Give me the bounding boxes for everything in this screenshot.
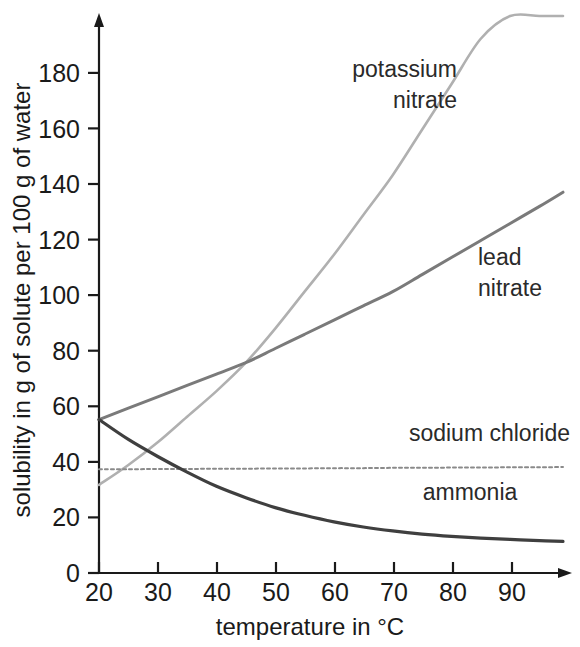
y-axis-arrow-icon xyxy=(94,13,104,27)
series-label-potassium-nitrate-line2: nitrate xyxy=(393,87,457,113)
x-tick-label-90: 90 xyxy=(498,578,526,606)
x-tick-label-70: 70 xyxy=(380,578,408,606)
x-axis-title: temperature in °C xyxy=(216,613,404,640)
y-tick-labels: 0 20 40 60 80 100 120 140 160 180 xyxy=(38,59,80,587)
x-tick-label-60: 60 xyxy=(321,578,349,606)
y-tick-label-40: 40 xyxy=(52,448,80,476)
x-tick-label-20: 20 xyxy=(85,578,113,606)
curve-sodium-chloride xyxy=(99,467,563,469)
x-tick-label-30: 30 xyxy=(144,578,172,606)
x-tick-label-50: 50 xyxy=(262,578,290,606)
x-tick-label-40: 40 xyxy=(203,578,231,606)
y-axis-title: solubility in g of solute per 100 g of w… xyxy=(8,83,35,518)
y-tick-label-120: 120 xyxy=(38,226,80,254)
series-label-ammonia: ammonia xyxy=(423,479,518,505)
y-tick-label-60: 60 xyxy=(52,392,80,420)
y-tick-label-140: 140 xyxy=(38,170,80,198)
series-label-lead-nitrate-line2: nitrate xyxy=(478,275,542,301)
y-tick-marks xyxy=(88,73,99,573)
y-tick-label-80: 80 xyxy=(52,337,80,365)
x-tick-labels: 20 30 40 50 60 70 80 90 xyxy=(85,578,526,606)
series-label-lead-nitrate-line1: lead xyxy=(478,244,521,270)
series-label-potassium-nitrate-line1: potassium xyxy=(352,56,457,82)
series-labels: potassium nitrate lead nitrate sodium ch… xyxy=(352,56,570,505)
solubility-chart: 0 20 40 60 80 100 120 140 160 180 20 30 xyxy=(0,0,580,647)
series-label-sodium-chloride: sodium chloride xyxy=(409,420,570,446)
x-tick-marks xyxy=(99,562,512,573)
y-tick-label-100: 100 xyxy=(38,281,80,309)
x-tick-label-80: 80 xyxy=(439,578,467,606)
y-tick-label-160: 160 xyxy=(38,115,80,143)
y-tick-label-180: 180 xyxy=(38,59,80,87)
y-axis xyxy=(94,13,104,573)
y-tick-label-0: 0 xyxy=(66,559,80,587)
chart-canvas: 0 20 40 60 80 100 120 140 160 180 20 30 xyxy=(0,0,580,647)
x-axis-arrow-icon xyxy=(558,568,572,578)
curve-lead-nitrate xyxy=(99,192,563,419)
y-tick-label-20: 20 xyxy=(52,503,80,531)
